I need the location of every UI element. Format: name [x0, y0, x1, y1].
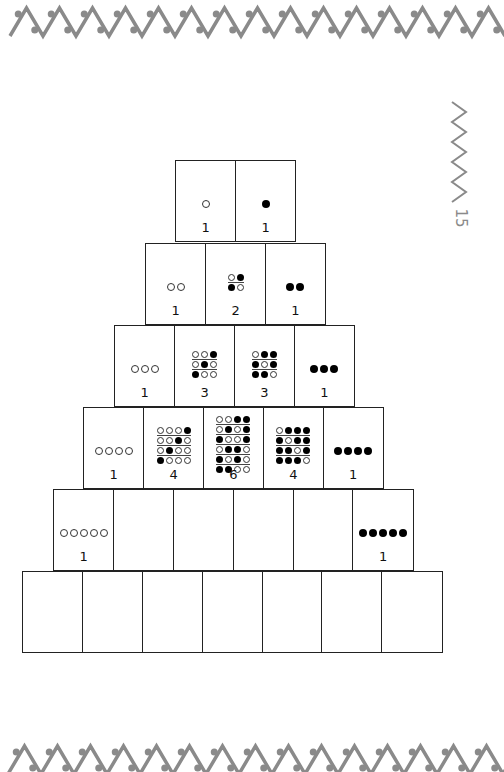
dot-patterns — [84, 446, 143, 456]
pyramid-cell: 4 — [263, 407, 324, 489]
open-circle-icon — [237, 284, 244, 291]
filled-circle-icon — [303, 447, 310, 454]
cell-count: 4 — [144, 467, 203, 482]
open-circle-icon — [70, 529, 78, 537]
filled-circle-icon — [276, 447, 283, 454]
cell-count: 1 — [84, 467, 143, 482]
dot-patterns — [266, 282, 325, 292]
open-circle-icon — [225, 436, 232, 443]
dot-pattern-row — [216, 435, 250, 445]
pyramid-cell-empty[interactable] — [321, 571, 382, 653]
filled-circle-icon — [379, 529, 387, 537]
open-circle-icon — [141, 365, 149, 373]
filled-circle-icon — [320, 365, 328, 373]
dot-patterns — [206, 273, 265, 292]
pyramid-row-6 — [22, 571, 443, 653]
dot-pattern-row — [157, 456, 191, 465]
filled-circle-icon — [216, 436, 223, 443]
dot-patterns — [175, 350, 234, 379]
pyramid-cell-empty[interactable] — [22, 571, 83, 653]
pyramid-cell-empty[interactable] — [233, 489, 294, 571]
filled-circle-icon — [210, 351, 217, 358]
dot-pattern-row — [252, 350, 277, 360]
cell-count: 1 — [353, 549, 412, 564]
open-circle-icon — [166, 457, 173, 464]
open-circle-icon — [243, 456, 250, 463]
dot-patterns — [115, 364, 174, 374]
open-circle-icon — [216, 416, 223, 423]
cell-count: 1 — [146, 303, 205, 318]
filled-circle-icon — [294, 457, 301, 464]
dot-patterns — [146, 282, 205, 292]
dot-patterns — [264, 426, 323, 465]
dot-pattern-row — [276, 436, 310, 446]
pyramid-cell: 3 — [234, 325, 295, 407]
open-circle-icon — [270, 371, 277, 378]
filled-circle-icon — [344, 447, 352, 455]
filled-circle-icon — [261, 351, 268, 358]
pyramid-row-4: 14641 — [83, 407, 384, 489]
pyramid-cell-empty[interactable] — [142, 571, 203, 653]
zigzag-vertical-icon — [448, 100, 472, 210]
open-circle-icon — [177, 283, 185, 291]
open-circle-icon — [175, 427, 182, 434]
pyramid-cell-empty[interactable] — [113, 489, 174, 571]
dot-pattern-row — [216, 455, 250, 465]
dot-pattern-row — [276, 426, 310, 436]
filled-circle-icon — [364, 447, 372, 455]
pyramid-cell: 2 — [205, 243, 266, 325]
zigzag-border-icon — [0, 732, 504, 772]
open-circle-icon — [95, 447, 103, 455]
open-circle-icon — [285, 437, 292, 444]
filled-circle-icon — [234, 446, 241, 453]
filled-circle-icon — [303, 427, 310, 434]
filled-circle-icon — [243, 436, 250, 443]
filled-circle-icon — [228, 284, 235, 291]
pyramid-cell-empty[interactable] — [202, 571, 263, 653]
pyramid-cell-empty[interactable] — [262, 571, 323, 653]
pyramid-cell: 1 — [175, 160, 236, 242]
filled-circle-icon — [296, 283, 304, 291]
filled-circle-icon — [184, 427, 191, 434]
open-circle-icon — [210, 371, 217, 378]
filled-circle-icon — [201, 361, 208, 368]
cell-count: 1 — [324, 467, 383, 482]
cell-count: 1 — [115, 385, 174, 400]
filled-circle-icon — [243, 416, 250, 423]
dot-patterns — [235, 350, 294, 379]
cell-count: 1 — [236, 220, 295, 235]
open-circle-icon — [303, 457, 310, 464]
dot-pattern-row — [157, 436, 191, 446]
open-circle-icon — [202, 200, 210, 208]
filled-circle-icon — [252, 361, 259, 368]
pyramid-cell-empty[interactable] — [381, 571, 442, 653]
dot-patterns — [353, 528, 412, 538]
dot-pattern-row — [252, 370, 277, 379]
dot-patterns — [144, 426, 203, 465]
filled-circle-icon — [354, 447, 362, 455]
open-circle-icon — [192, 361, 199, 368]
filled-circle-icon — [369, 529, 377, 537]
open-circle-icon — [261, 361, 268, 368]
filled-circle-icon — [389, 529, 397, 537]
pyramid-cell-empty[interactable] — [82, 571, 143, 653]
dot-pattern-row — [252, 360, 277, 370]
open-circle-icon — [175, 447, 182, 454]
open-circle-icon — [243, 446, 250, 453]
filled-circle-icon — [234, 416, 241, 423]
open-circle-icon — [100, 529, 108, 537]
filled-circle-icon — [285, 447, 292, 454]
filled-circle-icon — [237, 274, 244, 281]
dot-pattern-row — [276, 456, 310, 465]
filled-circle-icon — [252, 371, 259, 378]
pyramid-row-2: 121 — [145, 243, 326, 325]
dot-patterns — [324, 446, 383, 456]
pyramid-cell-empty[interactable] — [293, 489, 354, 571]
filled-circle-icon — [303, 437, 310, 444]
pyramid-cell-empty[interactable] — [173, 489, 234, 571]
open-circle-icon — [210, 361, 217, 368]
filled-circle-icon — [261, 371, 268, 378]
open-circle-icon — [60, 529, 68, 537]
pyramid-row-3: 1331 — [114, 325, 355, 407]
zigzag-border-icon — [0, 0, 504, 40]
